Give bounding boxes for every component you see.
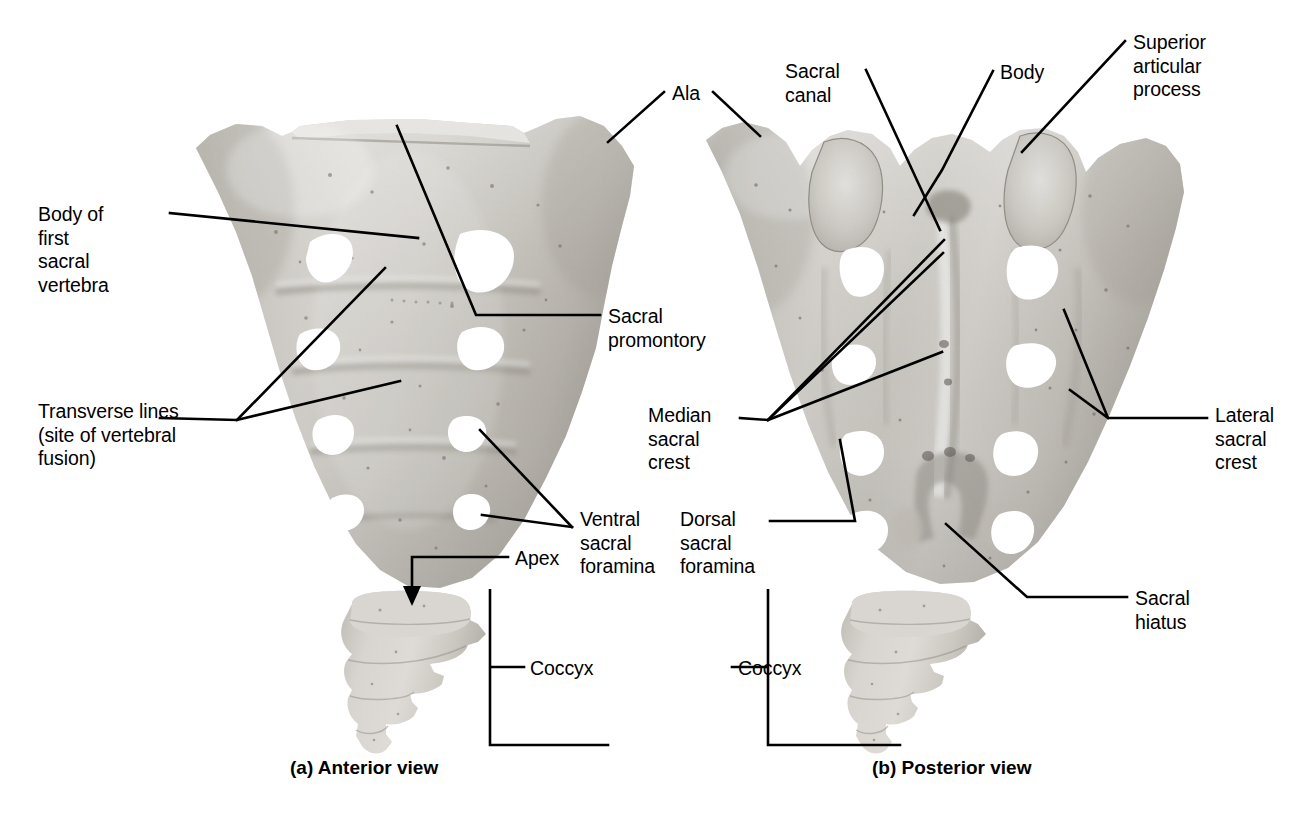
leader-ala-left — [608, 92, 664, 142]
label-sacral-canal: Sacral canal — [785, 60, 840, 107]
coccyx-posterior-bone — [841, 591, 986, 754]
label-transverse-lines: Transverse lines (site of vertebral fusi… — [38, 400, 179, 471]
label-median-sacral-crest: Median sacral crest — [648, 404, 711, 475]
label-sacral-hiatus: Sacral hiatus — [1135, 587, 1190, 634]
caption-anterior-view: (a) Anterior view — [290, 757, 438, 779]
label-apex: Apex — [515, 547, 559, 571]
label-lateral-sacral-crest: Lateral sacral crest — [1215, 404, 1274, 475]
label-sacral-promontory: Sacral promontory — [608, 305, 706, 352]
sacrum-posterior-bone — [690, 110, 1200, 600]
label-dorsal-sacral-foramina: Dorsal sacral foramina — [680, 508, 755, 579]
leader-superior-articular-process — [1022, 41, 1125, 152]
label-body: Body — [1000, 61, 1044, 85]
anatomy-figure: Body of first sacral vertebraTransverse … — [0, 0, 1310, 825]
label-coccyx-anterior: Coccyx — [530, 657, 593, 681]
caption-posterior-view: (b) Posterior view — [872, 757, 1031, 779]
label-ventral-sacral-foramina: Ventral sacral foramina — [580, 508, 655, 579]
coccyx-anterior-bone — [341, 591, 486, 754]
label-ala: Ala — [672, 82, 700, 106]
label-body-of-first-sacral-vertebra: Body of first sacral vertebra — [38, 203, 109, 297]
label-superior-articular-process: Superior articular process — [1133, 31, 1206, 102]
label-coccyx-posterior: Coccyx — [738, 657, 801, 681]
